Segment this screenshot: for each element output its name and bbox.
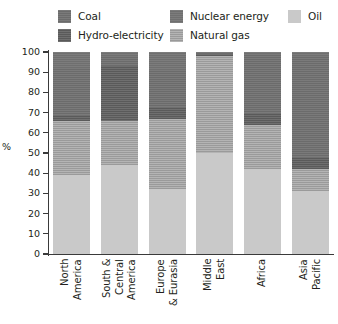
y-axis-tick: [43, 51, 48, 52]
category-label: Asia Pacific: [292, 259, 329, 324]
legend-swatch-gas-icon: [170, 29, 183, 42]
y-axis-tick-label: 100: [0, 47, 40, 57]
category-label-text: North America: [59, 259, 84, 324]
bar-segment-coal: [149, 70, 186, 106]
category-label-text: South & Central America: [101, 259, 139, 324]
bar-segment-coal: [101, 56, 138, 66]
bar-segment-nuclear: [244, 52, 281, 54]
y-axis-tick-label: 50: [0, 148, 40, 158]
y-axis-tick-label: 70: [0, 108, 40, 118]
stacked-bar[interactable]: [149, 52, 186, 254]
category-label: Middle East: [196, 259, 233, 324]
bar-segment-nuclear: [53, 52, 90, 68]
bar-segment-hydro: [244, 113, 281, 125]
legend-swatch-nuclear-icon: [170, 10, 183, 23]
legend-label: Oil: [308, 10, 322, 23]
bar-segment-gas: [149, 119, 186, 190]
stacked-bar[interactable]: [244, 52, 281, 254]
bar-segment-gas: [196, 56, 233, 153]
stacked-bar[interactable]: [196, 52, 233, 254]
y-axis-tick: [43, 112, 48, 113]
category-label: South & Central America: [101, 259, 138, 324]
y-axis-tick: [43, 213, 48, 214]
legend-label: Hydro-electricity: [78, 29, 164, 42]
bar-segment-oil: [196, 153, 233, 254]
y-axis-tick-label: 10: [0, 229, 40, 239]
category-label-text: Africa: [256, 259, 269, 324]
y-axis-tick-label: 40: [0, 168, 40, 178]
bar-segment-hydro: [53, 115, 90, 121]
legend-label: Natural gas: [190, 29, 250, 42]
y-axis-tick-labels: 1009080706050403020100: [0, 46, 40, 261]
stacked-bar[interactable]: [101, 52, 138, 254]
y-axis-tick-label: 80: [0, 87, 40, 97]
bar-segment-coal: [244, 54, 281, 113]
y-axis-tick: [43, 253, 48, 254]
bar-segment-hydro: [149, 107, 186, 119]
legend-item-nuclear: Nuclear energy: [170, 10, 269, 23]
x-axis-category-labels: North AmericaSouth & Central AmericaEuro…: [48, 259, 334, 324]
legend-item-oil: Oil: [288, 10, 322, 23]
y-axis-tick: [43, 233, 48, 234]
legend-label: Coal: [78, 10, 101, 23]
bar-segment-coal: [196, 52, 233, 54]
stacked-bar[interactable]: [53, 52, 90, 254]
y-axis-tick: [43, 72, 48, 73]
bar-segment-gas: [101, 121, 138, 165]
y-axis-tick-label: 0: [0, 249, 40, 259]
bar-segment-nuclear: [101, 52, 138, 56]
bar-segment-nuclear: [292, 52, 329, 56]
bar-segment-gas: [244, 125, 281, 169]
y-axis-tick: [43, 193, 48, 194]
legend-swatch-coal-icon: [58, 10, 71, 23]
bar-segment-oil: [53, 175, 90, 254]
category-label-text: Asia Pacific: [298, 259, 323, 324]
category-label: North America: [53, 259, 90, 324]
bar-segment-oil: [149, 189, 186, 254]
bar-series-group: [48, 52, 334, 254]
legend-item-gas: Natural gas: [170, 29, 250, 42]
plot-area: % 1009080706050403020100 North AmericaSo…: [0, 46, 338, 324]
category-label-text: Europe & Eurasia: [155, 259, 180, 324]
y-axis-tick-label: 90: [0, 67, 40, 77]
category-label: Africa: [244, 259, 281, 324]
y-axis-tick: [43, 132, 48, 133]
stacked-bar[interactable]: [292, 52, 329, 254]
y-axis-tick: [43, 92, 48, 93]
chart-legend: CoalHydro-electricityNuclear energyNatur…: [0, 4, 338, 46]
legend-label: Nuclear energy: [190, 10, 269, 23]
bar-segment-nuclear: [149, 52, 186, 70]
legend-swatch-hydro-icon: [58, 29, 71, 42]
legend-item-hydro: Hydro-electricity: [58, 29, 164, 42]
x-axis-line: [48, 254, 334, 255]
y-axis-tick-label: 30: [0, 188, 40, 198]
bar-segment-coal: [53, 68, 90, 114]
category-label-text: Middle East: [202, 259, 227, 324]
y-axis-tick: [43, 173, 48, 174]
bar-segment-hydro: [196, 54, 233, 56]
y-axis-tick: [43, 152, 48, 153]
bar-segment-oil: [292, 191, 329, 254]
bar-segment-oil: [101, 165, 138, 254]
bar-segment-hydro: [292, 157, 329, 169]
y-axis-tick-label: 60: [0, 128, 40, 138]
bar-segment-oil: [244, 169, 281, 254]
category-label: Europe & Eurasia: [149, 259, 186, 324]
y-axis-tick-label: 20: [0, 209, 40, 219]
bar-segment-gas: [292, 169, 329, 191]
bar-segment-coal: [292, 56, 329, 157]
legend-item-coal: Coal: [58, 10, 101, 23]
bar-segment-hydro: [101, 66, 138, 121]
bar-segment-gas: [53, 121, 90, 176]
legend-swatch-oil-icon: [288, 10, 301, 23]
